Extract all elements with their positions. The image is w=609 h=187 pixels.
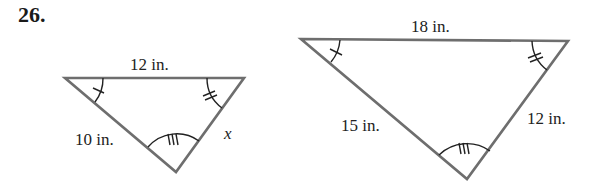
tick-mark [463,143,465,154]
side-label-top: 12 in. [130,55,169,74]
similar-triangles-diagram: 12 in. 10 in. x 18 in. 15 in. 12 in. [0,0,609,187]
side-label-right: 12 in. [527,109,566,128]
tick-mark [172,134,174,145]
large-triangle: 18 in. 15 in. 12 in. [301,17,568,179]
tick-mark [176,134,178,145]
side-label-top: 18 in. [411,17,450,36]
side-label-left: 15 in. [341,116,380,135]
tick-mark [467,143,469,154]
small-triangle: 12 in. 10 in. x [65,55,244,172]
side-label-right: x [223,124,232,143]
small-triangle-outline [65,78,244,172]
tick-mark [168,134,170,145]
side-label-left: 10 in. [75,130,114,149]
